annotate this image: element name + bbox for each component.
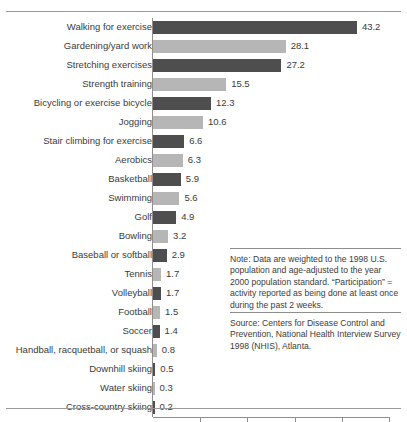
- category-label: Handball, racquetball, or squash: [2, 343, 152, 356]
- category-label: Golf: [2, 210, 152, 223]
- category-label: Soccer: [2, 324, 152, 337]
- bar-value-label: 1.7: [166, 267, 179, 280]
- category-label: Baseball or softball: [2, 248, 152, 261]
- bar: [153, 59, 281, 72]
- bar-container: [153, 59, 281, 72]
- category-label: Football: [2, 305, 152, 318]
- bar-value-label: 0.8: [162, 343, 175, 356]
- category-label: Strength training: [2, 77, 152, 90]
- x-axis-line: [153, 417, 390, 418]
- x-axis-tick: [200, 417, 201, 422]
- x-axis-tick: [389, 417, 390, 422]
- category-label: Stair climbing for exercise: [2, 134, 152, 147]
- bar-container: [153, 344, 157, 357]
- bar-container: [153, 173, 181, 186]
- bar: [153, 230, 168, 243]
- bar-container: [153, 78, 226, 91]
- bar-value-label: 1.4: [165, 324, 178, 337]
- chart-figure: Walking for exercise43.2Gardening/yard w…: [0, 0, 407, 422]
- x-axis-tick: [247, 417, 248, 422]
- bar-container: [153, 135, 184, 148]
- bar-container: [153, 211, 176, 224]
- bar: [153, 306, 160, 319]
- x-axis-tick: [342, 417, 343, 422]
- bar-value-label: 5.9: [186, 172, 199, 185]
- bar-container: [153, 287, 161, 300]
- chart-row: Jogging10.6: [0, 113, 407, 132]
- chart-row: Strength training15.5: [0, 75, 407, 94]
- bar: [153, 325, 160, 338]
- bar-container: [153, 363, 155, 376]
- bar: [153, 363, 155, 376]
- category-label: Basketball: [2, 172, 152, 185]
- bar-value-label: 6.3: [188, 153, 201, 166]
- bar-container: [153, 116, 203, 129]
- bar-value-label: 2.9: [172, 248, 185, 261]
- category-label: Bicycling or exercise bicycle: [2, 96, 152, 109]
- category-label: Stretching exercises: [2, 58, 152, 71]
- bar-value-label: 15.5: [231, 77, 250, 90]
- bar-value-label: 43.2: [362, 20, 381, 33]
- bar-container: [153, 230, 168, 243]
- category-label: Bowling: [2, 229, 152, 242]
- category-label: Jogging: [2, 115, 152, 128]
- bar: [153, 211, 176, 224]
- bar: [153, 173, 181, 186]
- bar: [153, 268, 161, 281]
- bar-container: [153, 249, 167, 262]
- bar: [153, 135, 184, 148]
- bar: [153, 382, 155, 395]
- bar: [153, 97, 211, 110]
- chart-row: Aerobics6.3: [0, 151, 407, 170]
- bar: [153, 40, 286, 53]
- bottom-divider-rule: [6, 408, 401, 409]
- bar-value-label: 0.3: [160, 381, 173, 394]
- bar: [153, 78, 226, 91]
- bar-value-label: 27.2: [286, 58, 305, 71]
- note-text: Note: Data are weighted to the 1998 U.S.…: [230, 249, 401, 317]
- bar-value-label: 1.7: [166, 286, 179, 299]
- bar-value-label: 28.1: [291, 39, 310, 52]
- chart-row: Walking for exercise43.2: [0, 18, 407, 37]
- bar: [153, 344, 157, 357]
- bar-container: [153, 306, 160, 319]
- bar: [153, 154, 183, 167]
- chart-row: Bowling3.2: [0, 227, 407, 246]
- x-axis-tick: [295, 417, 296, 422]
- bar-container: [153, 382, 155, 395]
- chart-row: Stair climbing for exercise6.6: [0, 132, 407, 151]
- category-label: Water skiing: [2, 381, 152, 394]
- bar: [153, 116, 203, 129]
- chart-row: Basketball5.9: [0, 170, 407, 189]
- bar-container: [153, 268, 161, 281]
- bar-container: [153, 40, 286, 53]
- bar-value-label: 10.6: [208, 115, 227, 128]
- category-label: Volleyball: [2, 286, 152, 299]
- chart-row: Gardening/yard work28.1: [0, 37, 407, 56]
- bar-container: [153, 325, 160, 338]
- chart-row: Stretching exercises27.2: [0, 56, 407, 75]
- bar-value-label: 12.3: [216, 96, 235, 109]
- category-label: Downhill skiing: [2, 362, 152, 375]
- bar-value-label: 0.2: [160, 400, 173, 413]
- top-divider-rule: [6, 11, 401, 12]
- bar-container: [153, 21, 357, 34]
- bar-value-label: 1.5: [165, 305, 178, 318]
- chart-row: Water skiing0.3: [0, 379, 407, 398]
- category-label: Cross-country skiing: [2, 400, 152, 413]
- chart-row: Downhill skiing0.5: [0, 360, 407, 379]
- bar-value-label: 3.2: [173, 229, 186, 242]
- category-label: Gardening/yard work: [2, 39, 152, 52]
- bar-value-label: 6.6: [189, 134, 202, 147]
- category-label: Aerobics: [2, 153, 152, 166]
- bar-container: [153, 192, 179, 205]
- category-label: Walking for exercise: [2, 20, 152, 33]
- bar-container: [153, 97, 211, 110]
- category-label: Tennis: [2, 267, 152, 280]
- bar-value-label: 0.5: [160, 362, 173, 375]
- bar: [153, 287, 161, 300]
- y-axis-spine: [152, 18, 153, 417]
- bar: [153, 21, 357, 34]
- bar-value-label: 5.6: [184, 191, 197, 204]
- source-panel: Source: Centers for Disease Control and …: [230, 312, 401, 358]
